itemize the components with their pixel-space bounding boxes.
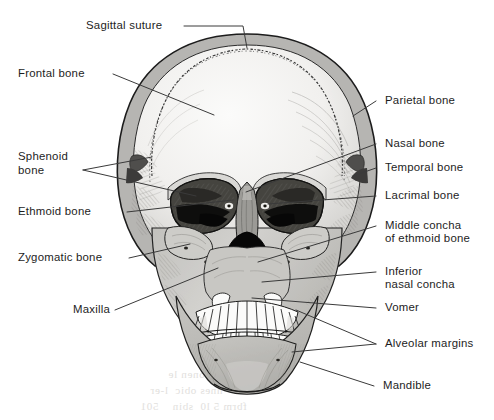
label-sphenoid-bone-line1: Sphenoid	[18, 150, 68, 163]
label-nasal-bone: Nasal bone	[385, 137, 445, 150]
label-frontal-bone: Frontal bone	[18, 67, 85, 80]
label-temporal-bone: Temporal bone	[385, 161, 463, 174]
label-maxilla: Maxilla	[73, 303, 110, 316]
label-vomer: Vomer	[385, 301, 419, 314]
label-inferior-nasal-concha-line2: nasal concha	[385, 278, 455, 291]
label-zygomatic-bone: Zygomatic bone	[18, 251, 102, 264]
label-lacrimal-bone: Lacrimal bone	[385, 189, 460, 202]
label-middle-concha-line2: of ethmoid bone	[385, 232, 470, 245]
skull-diagram-figure: onen le nnes obic l-er fbrm 5 l0 sbin 50…	[0, 0, 494, 420]
label-sagittal-suture: Sagittal suture	[86, 19, 162, 32]
label-alveolar-margins: Alveolar margins	[385, 337, 473, 350]
label-ethmoid-bone: Ethmoid bone	[18, 205, 91, 218]
label-middle-concha-line1: Middle concha	[385, 219, 461, 232]
label-mandible: Mandible	[383, 379, 431, 392]
label-sphenoid-bone-line2: bone	[18, 164, 44, 177]
label-parietal-bone: Parietal bone	[385, 94, 455, 107]
label-inferior-nasal-concha-line1: Inferior	[385, 265, 422, 278]
leader-mandible	[300, 362, 374, 386]
